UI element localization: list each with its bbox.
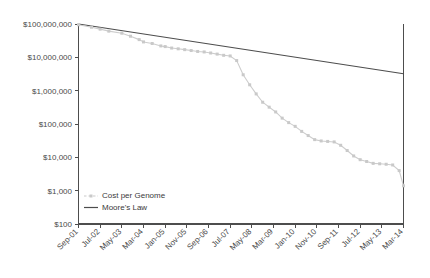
data-point-marker xyxy=(274,110,277,113)
y-tick-label: $10,000 xyxy=(43,153,72,162)
y-tick-label: $100,000 xyxy=(39,120,73,129)
x-tick-label: May-13 xyxy=(358,227,384,253)
data-point-marker xyxy=(196,50,199,53)
x-tick-label: Mar-14 xyxy=(381,227,406,252)
data-point-marker xyxy=(120,32,123,35)
series-cost-per-genome xyxy=(77,23,405,187)
x-tick-label: Sep-06 xyxy=(185,227,210,252)
data-point-marker xyxy=(142,40,145,43)
data-point-marker xyxy=(216,53,219,56)
data-point-marker xyxy=(326,140,329,143)
data-point-marker xyxy=(170,47,173,50)
data-point-marker xyxy=(190,49,193,52)
x-tick-label: Mar-04 xyxy=(121,227,146,252)
data-point-marker xyxy=(242,73,245,76)
x-tick-label: Nov-05 xyxy=(164,227,189,252)
data-point-marker xyxy=(365,160,368,163)
data-point-marker xyxy=(359,158,362,161)
y-tick-label: $1,000 xyxy=(48,187,73,196)
x-tick-label: Sep-11 xyxy=(316,227,341,252)
y-tick-label: $100 xyxy=(54,220,72,229)
data-point-marker xyxy=(159,44,162,47)
data-point-marker xyxy=(300,130,303,133)
x-tick-label: Mar-09 xyxy=(251,227,276,252)
legend: Cost per GenomeMoore's Law xyxy=(84,191,166,212)
data-point-marker xyxy=(235,59,238,62)
data-point-marker xyxy=(372,162,375,165)
data-point-marker xyxy=(307,134,310,137)
data-point-marker xyxy=(138,38,141,41)
legend-swatch-marker xyxy=(90,195,93,198)
data-point-marker xyxy=(229,54,232,57)
legend-item[interactable]: Moore's Law xyxy=(84,203,147,212)
x-tick-label: Nov-10 xyxy=(294,227,319,252)
y-tick-label: $10,000,000 xyxy=(28,53,73,62)
data-point-marker xyxy=(222,54,225,57)
data-point-marker xyxy=(90,26,93,29)
data-point-marker xyxy=(281,117,284,120)
data-point-marker xyxy=(402,184,405,187)
data-point-marker xyxy=(99,28,102,31)
y-tick-label: $1,000,000 xyxy=(32,87,73,96)
y-axis-ticks: $100,000,000$10,000,000$1,000,000$100,00… xyxy=(23,20,78,229)
data-point-marker xyxy=(352,154,355,157)
data-point-marker xyxy=(203,50,206,53)
data-point-marker xyxy=(129,35,132,38)
chart-canvas: $100,000,000$10,000,000$1,000,000$100,00… xyxy=(0,0,430,278)
series-line-moores-law xyxy=(79,24,404,74)
data-point-marker xyxy=(320,139,323,142)
legend-item[interactable]: Cost per Genome xyxy=(84,191,166,200)
cost-per-genome-chart: $100,000,000$10,000,000$1,000,000$100,00… xyxy=(0,0,430,278)
data-point-marker xyxy=(313,138,316,141)
data-point-marker xyxy=(261,101,264,104)
data-point-marker xyxy=(77,23,80,26)
x-tick-label: May-08 xyxy=(228,227,254,253)
data-point-marker xyxy=(248,83,251,86)
data-point-marker xyxy=(333,140,336,143)
data-point-marker xyxy=(151,42,154,45)
data-point-marker xyxy=(183,48,186,51)
data-point-marker xyxy=(177,47,180,50)
data-point-marker xyxy=(255,92,258,95)
legend-item-label: Cost per Genome xyxy=(102,191,166,200)
data-point-marker xyxy=(164,45,167,48)
x-axis-ticks: Sep-01Jul-02May-03Mar-04Jan-05Nov-05Sep-… xyxy=(55,224,405,252)
data-point-marker xyxy=(339,144,342,147)
data-point-marker xyxy=(346,149,349,152)
x-tick-label: Jan-10 xyxy=(273,227,297,251)
data-point-marker xyxy=(294,125,297,128)
data-point-marker xyxy=(385,163,388,166)
data-point-marker xyxy=(209,51,212,54)
data-point-marker xyxy=(287,121,290,124)
data-point-marker xyxy=(378,162,381,165)
x-tick-label: Sep-01 xyxy=(55,227,80,252)
data-point-marker xyxy=(398,169,401,172)
legend-item-label: Moore's Law xyxy=(102,203,147,212)
x-tick-label: May-03 xyxy=(98,227,124,253)
data-point-marker xyxy=(268,106,271,109)
data-point-marker xyxy=(391,163,394,166)
data-point-marker xyxy=(107,30,110,33)
y-tick-label: $100,000,000 xyxy=(23,20,72,29)
x-tick-label: Jan-05 xyxy=(143,227,167,251)
